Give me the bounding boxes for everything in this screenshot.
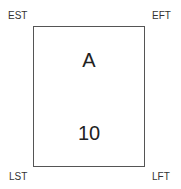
- activity-name: A: [34, 49, 144, 71]
- earliest-start-label: EST: [8, 11, 27, 21]
- activity-duration: 10: [34, 122, 144, 144]
- activity-node: A 10: [33, 26, 145, 167]
- latest-start-label: LST: [9, 172, 27, 182]
- latest-finish-label: LFT: [152, 172, 170, 182]
- earliest-finish-label: EFT: [152, 11, 171, 21]
